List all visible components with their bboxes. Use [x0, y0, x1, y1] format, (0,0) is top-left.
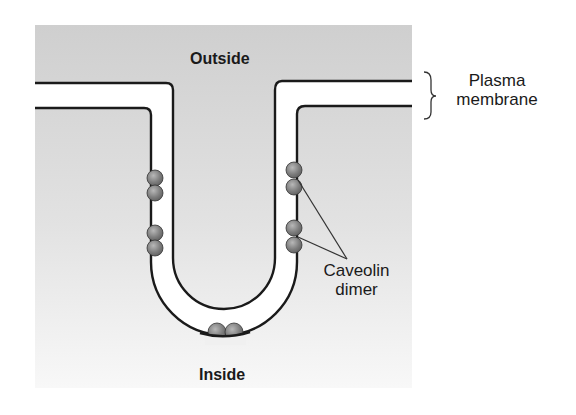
label-inside: Inside [199, 366, 245, 384]
label-plasma-membrane-line1: Plasma [447, 72, 547, 91]
label-caveolin-dimer: Caveolin dimer [314, 262, 399, 299]
caveola-diagram [0, 0, 576, 415]
label-outside: Outside [190, 50, 250, 68]
label-plasma-membrane-line2: membrane [447, 91, 547, 110]
plasma-membrane-brace [424, 72, 436, 119]
label-caveolin-line1: Caveolin [314, 262, 399, 281]
label-plasma-membrane: Plasma membrane [447, 72, 547, 109]
label-caveolin-line2: dimer [314, 281, 399, 300]
